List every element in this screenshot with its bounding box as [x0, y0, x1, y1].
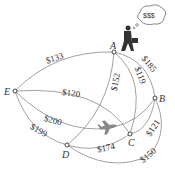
node-C [128, 132, 132, 136]
edge-label-E-D: $199 [29, 121, 50, 139]
edge-label-E-B: $200 [43, 113, 63, 127]
edge-label-E-A: $133 [44, 50, 65, 65]
node-label-C: C [128, 137, 135, 148]
edge-label-D-B: $150 [138, 145, 159, 165]
edge-A-C [114, 52, 136, 134]
edge-label-D-C: $174 [96, 141, 116, 155]
route-graph: $133 $185 $119 $152 $120 $200 $199 $174 … [0, 0, 175, 172]
node-label-B: B [159, 93, 165, 104]
node-B [153, 96, 157, 100]
node-label-D: D [61, 149, 70, 160]
edge-label-E-C: $120 [62, 87, 82, 99]
airplane-icon [97, 119, 118, 136]
node-label-A: A [109, 40, 117, 51]
node-label-E: E [3, 86, 10, 97]
bubble-text: $$$ [143, 12, 155, 19]
edge-label-A-D: $152 [109, 72, 122, 91]
edge-label-A-C: $119 [133, 65, 149, 85]
thought-bubble: $$$ [133, 5, 166, 29]
traveler-icon [121, 26, 138, 52]
edge-E-A [15, 52, 114, 91]
node-E [13, 89, 17, 93]
node-D [65, 143, 69, 147]
edge-label-C-B: $121 [144, 118, 163, 138]
